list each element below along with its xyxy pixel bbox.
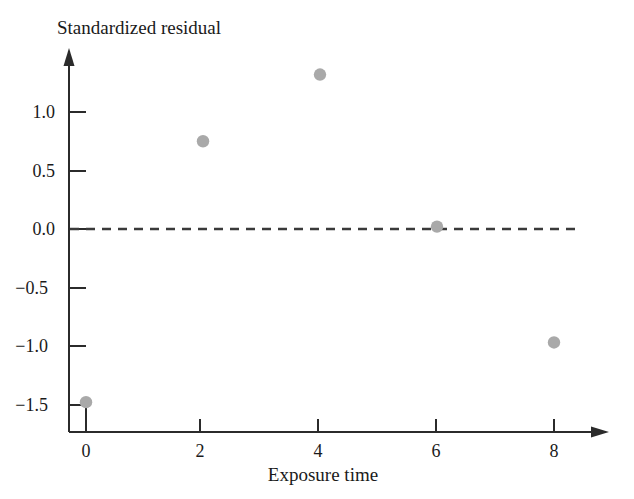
plot-canvas <box>0 0 634 499</box>
y-axis-ticks <box>69 112 86 405</box>
data-point-series <box>80 68 560 408</box>
x-tick-label: 8 <box>534 442 574 460</box>
x-tick-label: 2 <box>180 442 220 460</box>
data-point <box>431 220 443 232</box>
y-tick-label: −0.5 <box>0 279 48 297</box>
scatter-plot-figure: Standardized residual Exposure time 1.0 … <box>0 0 634 499</box>
y-tick-label: 0.0 <box>0 220 55 238</box>
y-axis-title: Standardized residual <box>57 18 221 37</box>
y-tick-label: 1.0 <box>0 103 55 121</box>
x-tick-label: 0 <box>66 442 106 460</box>
data-point <box>197 135 209 147</box>
x-axis-title: Exposure time <box>6 465 634 484</box>
x-axis-ticks <box>86 405 554 432</box>
data-point <box>314 68 326 80</box>
y-tick-label: 0.5 <box>0 162 55 180</box>
x-tick-label: 4 <box>298 442 338 460</box>
data-point <box>80 396 92 408</box>
data-point <box>548 336 560 348</box>
y-axis <box>64 48 75 432</box>
y-tick-label: −1.5 <box>0 396 48 414</box>
x-axis <box>69 427 609 438</box>
x-tick-label: 6 <box>416 442 456 460</box>
y-tick-label: −1.0 <box>0 337 48 355</box>
